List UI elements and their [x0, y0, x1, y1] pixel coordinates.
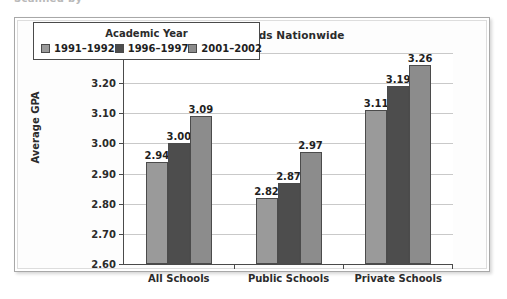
y-axis-tick-label: 2.70 [91, 228, 116, 239]
y-axis-tick-label: 3.00 [91, 138, 116, 149]
legend-item-label: 1991–1992 [54, 43, 115, 54]
x-axis-category-label: Public Schools [248, 273, 329, 284]
y-axis-tick-mark [119, 143, 124, 144]
y-axis-tick-label: 2.80 [91, 198, 116, 209]
bar: 2.87 [278, 183, 300, 264]
y-axis-tick-label: 3.10 [91, 108, 116, 119]
bar: 3.00 [168, 143, 190, 264]
clipped-header-text: Scanned by [14, 0, 82, 4]
x-axis-tick-mark [234, 264, 235, 269]
y-axis-title: Average GPA [30, 83, 41, 173]
bar-value-label: 3.09 [188, 104, 213, 115]
legend-swatch-icon [188, 44, 197, 53]
bar: 2.94 [146, 162, 168, 264]
y-axis-tick-mark [119, 113, 124, 114]
chart-legend: Academic Year 1991–19921996–19972001–200… [33, 22, 260, 60]
y-axis-tick-label: 2.90 [91, 168, 116, 179]
y-axis-tick-mark [119, 204, 124, 205]
x-axis-category-label: All Schools [148, 273, 209, 284]
bar-value-label: 3.26 [408, 53, 433, 64]
x-axis-tick-mark [452, 264, 453, 269]
bar-value-label: 3.19 [386, 74, 411, 85]
plot-area: 2.602.702.802.903.003.103.203.302.943.00… [123, 53, 453, 265]
bar-value-label: 2.87 [276, 171, 301, 182]
y-axis-tick-mark [119, 234, 124, 235]
bar-value-label: 3.11 [364, 98, 389, 109]
legend-swatch-icon [115, 44, 124, 53]
y-axis-tick-label: 2.60 [91, 259, 116, 270]
bar: 3.11 [365, 110, 387, 264]
legend-title: Academic Year [40, 28, 253, 39]
bar: 3.26 [409, 65, 431, 264]
y-axis-tick-mark [119, 83, 124, 84]
legend-item: 1996–1997 [115, 43, 189, 54]
bar: 2.97 [300, 152, 322, 264]
y-axis-tick-mark [119, 264, 124, 265]
bar-value-label: 2.97 [298, 140, 323, 151]
bar-value-label: 2.82 [254, 186, 279, 197]
y-axis-tick-mark [119, 174, 124, 175]
legend-item-label: 2001–2002 [201, 43, 262, 54]
bar: 2.82 [256, 198, 278, 264]
legend-swatch-icon [41, 44, 50, 53]
bar: 3.09 [190, 116, 212, 264]
y-axis-tick-label: 3.20 [91, 78, 116, 89]
legend-item: 1991–1992 [41, 43, 115, 54]
x-axis-tick-mark [343, 264, 344, 269]
chart-figure-frame: Recent GPA Trends Nationwide Average GPA… [14, 17, 490, 272]
bar-value-label: 2.94 [144, 150, 169, 161]
x-axis-category-label: Private Schools [354, 273, 441, 284]
legend-item-label: 1996–1997 [128, 43, 189, 54]
bar: 3.19 [387, 86, 409, 264]
legend-items: 1991–19921996–19972001–2002 [40, 43, 253, 54]
bar-value-label: 3.00 [166, 131, 191, 142]
legend-item: 2001–2002 [188, 43, 262, 54]
